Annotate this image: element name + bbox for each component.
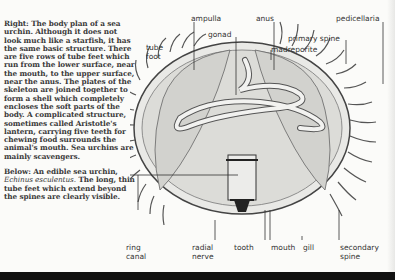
label-tube-foot: tube foot (146, 43, 163, 61)
label-madreporite: madreporite (271, 45, 317, 54)
label-ampulla: ampulla (191, 14, 221, 23)
caption-right-body: The body plan of a sea urchin. Although … (4, 19, 135, 161)
label-ring-canal: ring canal (126, 243, 146, 261)
page-edge (387, 0, 395, 272)
label-pedicellaria: pedicellaria (336, 14, 379, 23)
label-tooth: tooth (234, 243, 254, 252)
label-secondary-spine: secondary spine (340, 243, 379, 261)
caption-below-paragraph: Below: An edible sea urchin, Echinus esc… (4, 168, 136, 201)
label-gonad: gonad (208, 30, 231, 39)
bottom-photo-edge (0, 272, 395, 280)
label-anus: anus (256, 14, 274, 23)
label-radial-nerve: radial nerve (192, 243, 214, 261)
label-gill: gill (303, 243, 314, 252)
caption-text: Right: The body plan of a sea urchin. Al… (4, 20, 136, 208)
caption-right-paragraph: Right: The body plan of a sea urchin. Al… (4, 20, 136, 161)
label-primary-spine: primary spine (288, 34, 340, 43)
sea-urchin-diagram (130, 0, 395, 272)
label-mouth: mouth (271, 243, 295, 252)
